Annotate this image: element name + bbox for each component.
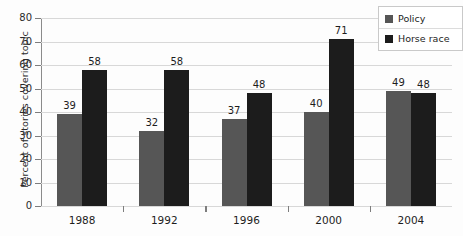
gridline	[41, 206, 452, 207]
bar-value-label: 39	[57, 100, 82, 111]
y-tick-mark	[35, 183, 41, 184]
x-axis-label-1988: 1988	[41, 214, 123, 226]
bar-2000-horse-race	[329, 39, 354, 206]
bar-value-label: 49	[386, 77, 411, 88]
bar-1992-horse-race	[164, 70, 189, 206]
x-axis-label-1992: 1992	[123, 214, 205, 226]
chart-legend: Policy Horse race	[378, 6, 463, 51]
y-tick-mark	[35, 159, 41, 160]
bar-value-label: 40	[304, 98, 329, 109]
bar-chart: Percent of stories covering topic Policy…	[0, 0, 463, 236]
y-tick-label: 80	[6, 12, 32, 23]
horse-race-swatch-icon	[385, 35, 393, 43]
bar-value-label: 58	[82, 56, 107, 67]
legend-label-policy: Policy	[398, 13, 425, 24]
y-tick-label: 20	[6, 153, 32, 164]
bar-1996-horse-race	[247, 93, 272, 206]
bar-value-label: 37	[222, 105, 247, 116]
y-tick-mark	[35, 65, 41, 66]
bar-1996-policy	[222, 119, 247, 206]
bar-1992-policy	[139, 131, 164, 206]
bar-value-label: 71	[329, 25, 354, 36]
y-tick-label: 50	[6, 83, 32, 94]
y-tick-label: 70	[6, 36, 32, 47]
bar-value-label: 48	[247, 79, 272, 90]
y-tick-label: 60	[6, 59, 32, 70]
x-tick-mark	[205, 206, 206, 212]
bar-2004-policy	[386, 91, 411, 206]
y-tick-mark	[35, 206, 41, 207]
x-axis-label-1996: 1996	[205, 214, 287, 226]
y-tick-label: 40	[6, 106, 32, 117]
bar-1988-policy	[57, 114, 82, 206]
y-tick-mark	[35, 136, 41, 137]
bar-value-label: 58	[164, 56, 189, 67]
y-tick-mark	[35, 89, 41, 90]
y-tick-mark	[35, 18, 41, 19]
legend-label-horse-race: Horse race	[398, 33, 449, 44]
x-axis-label-2004: 2004	[370, 214, 452, 226]
legend-item-policy[interactable]: Policy	[379, 9, 462, 28]
x-tick-mark	[123, 206, 124, 212]
y-tick-label: 0	[6, 200, 32, 211]
bar-value-label: 32	[139, 117, 164, 128]
bar-1988-horse-race	[82, 70, 107, 206]
x-tick-mark	[288, 206, 289, 212]
x-tick-mark	[370, 206, 371, 212]
y-tick-label: 10	[6, 177, 32, 188]
y-tick-mark	[35, 112, 41, 113]
x-axis-label-2000: 2000	[288, 214, 370, 226]
y-tick-mark	[35, 42, 41, 43]
bar-value-label: 48	[411, 79, 436, 90]
bar-2004-horse-race	[411, 93, 436, 206]
legend-item-horse-race[interactable]: Horse race	[379, 28, 462, 48]
bar-2000-policy	[304, 112, 329, 206]
policy-swatch-icon	[385, 15, 393, 23]
y-tick-label: 30	[6, 130, 32, 141]
